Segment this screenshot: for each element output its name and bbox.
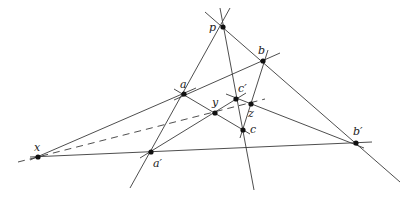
label-y: y	[212, 97, 218, 108]
point-y	[212, 110, 217, 115]
label-a: a	[180, 79, 187, 90]
point-a_prime	[148, 149, 153, 154]
label-a_prime: a′	[153, 158, 162, 169]
line-x-aprime-bprime	[30, 142, 372, 157]
label-c: c	[250, 124, 256, 135]
label-x: x	[34, 142, 40, 153]
label-z: z	[248, 108, 254, 119]
point-c_prime	[233, 96, 238, 101]
label-c_prime: c′	[238, 83, 247, 94]
line-x-a	[30, 88, 196, 160]
point-c	[240, 127, 245, 132]
point-a	[181, 91, 186, 96]
line-cprime-z-bprime	[226, 94, 364, 148]
label-b_prime: b′	[353, 126, 363, 137]
point-z	[248, 101, 253, 106]
desargues-diagram: pbac′zycxa′b′	[0, 0, 416, 198]
point-b_prime	[353, 140, 358, 145]
label-p: p	[209, 22, 216, 33]
point-p	[220, 24, 225, 29]
point-x	[35, 154, 40, 159]
label-b: b	[258, 45, 265, 56]
point-b	[260, 58, 265, 63]
diagram-svg	[0, 0, 416, 198]
